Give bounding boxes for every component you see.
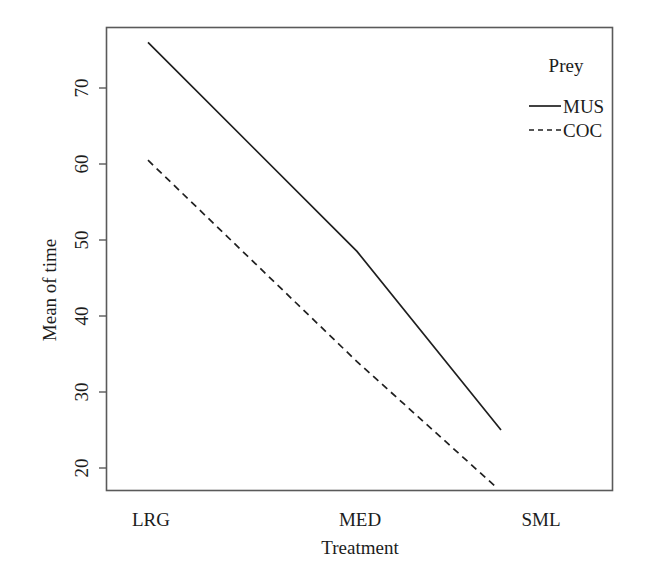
line-chart-canvas: 70 60 50 40 30 20 Mean of time LRG MED S… [0,0,646,580]
y-axis-tick-labels: 70 60 50 40 30 20 [71,79,92,478]
series-line-mus [148,42,501,430]
y-tick-label-50: 50 [71,231,92,250]
x-tick-label-med: MED [339,509,381,530]
x-axis-tick-labels: LRG MED SML [132,509,561,530]
y-axis-title: Mean of time [39,239,60,341]
x-tick-label-lrg: LRG [132,509,170,530]
x-axis-title: Treatment [321,537,399,558]
series-line-coc [148,160,496,487]
y-tick-label-20: 20 [71,459,92,478]
legend-label-mus: MUS [563,96,604,117]
legend: Prey MUS COC [529,55,604,141]
y-tick-label-70: 70 [71,79,92,98]
x-tick-label-sml: SML [521,509,560,530]
chart-figure: 70 60 50 40 30 20 Mean of time LRG MED S… [0,0,646,580]
legend-title: Prey [549,55,584,76]
y-tick-label-60: 60 [71,155,92,174]
legend-label-coc: COC [563,120,602,141]
plot-frame [107,28,613,491]
y-tick-label-30: 30 [71,383,92,402]
y-tick-label-40: 40 [71,307,92,326]
